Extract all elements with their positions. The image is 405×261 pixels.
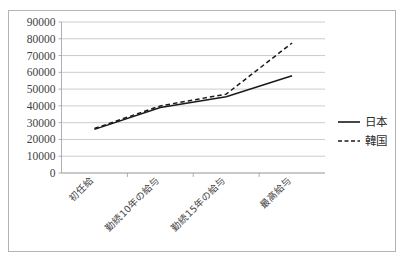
x-axis-tick-marks: [127, 173, 259, 177]
y-axis-tick-label: 70000: [27, 50, 56, 62]
y-axis-tick-label: 60000: [27, 66, 56, 78]
y-axis-tick-label: 40000: [27, 100, 56, 112]
x-axis-category-labels: 初任給勤続10年の給与勤続15年の給与最高給与: [67, 175, 294, 234]
y-axis-tick-label: 0: [50, 167, 56, 179]
y-axis-tick-label: 50000: [27, 83, 56, 95]
y-axis-tick-label: 30000: [27, 117, 56, 129]
y-axis-tick-label: 20000: [27, 133, 56, 145]
y-axis-tick-labels: 9000080000700006000050000400003000020000…: [27, 16, 62, 179]
gridlines-group: [62, 22, 326, 173]
chart-legend: 日本韓国: [338, 115, 388, 148]
y-axis-tick-label: 90000: [27, 16, 56, 28]
x-axis-category-label: 最高給与: [257, 175, 293, 211]
y-axis-tick-label: 80000: [27, 33, 56, 45]
line-chart: 9000080000700006000050000400003000020000…: [0, 0, 405, 261]
x-axis-category-label: 初任給: [67, 175, 96, 204]
legend-label: 日本: [365, 115, 388, 129]
y-axis-tick-label: 10000: [27, 150, 56, 162]
legend-label: 韓国: [365, 134, 387, 148]
series-line-japan: [94, 76, 292, 130]
x-axis-category-label: 勤続10年の給与: [103, 175, 162, 234]
chart-container: 9000080000700006000050000400003000020000…: [0, 0, 405, 261]
x-axis-category-label: 勤続15年の給与: [169, 175, 228, 234]
